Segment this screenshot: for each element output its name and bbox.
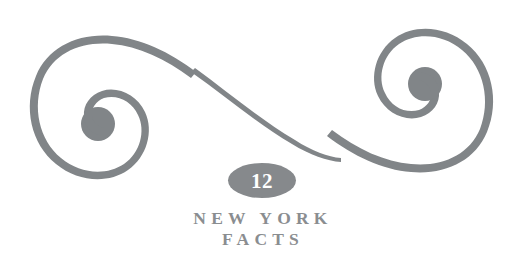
decorative-title-card: 12 NEW YORK FACTS <box>0 0 523 256</box>
title-line-2: FACTS <box>222 229 304 249</box>
number-badge: 12 <box>228 163 296 198</box>
right-spiral-stroke <box>327 29 493 173</box>
left-spiral-stroke <box>30 36 196 180</box>
title-line-1: NEW YORK <box>193 208 332 228</box>
left-spiral-icon <box>30 36 196 180</box>
spiral-connector-stroke <box>191 68 341 162</box>
title-card-artwork: 12 NEW YORK FACTS <box>0 0 523 256</box>
badge-number-text: 12 <box>251 169 273 193</box>
right-spiral-icon <box>327 29 493 173</box>
